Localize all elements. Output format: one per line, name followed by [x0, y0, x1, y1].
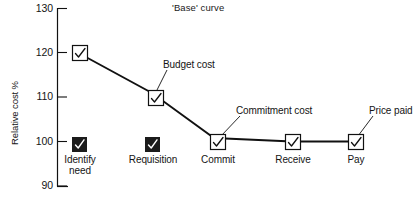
- annotation-budget-cost: Budget cost: [163, 60, 215, 71]
- x-category-label-identify-need-line1: Identify: [64, 154, 95, 165]
- below-axis-marker-identify-need: [73, 138, 87, 152]
- annotation-commitment-cost: Commitment cost: [236, 106, 312, 117]
- x-category-label-pay: Pay: [328, 155, 384, 166]
- x-category-label-receive: Receive: [265, 155, 321, 166]
- y-tick-label-100: 100: [25, 136, 53, 147]
- y-tick-label-130: 130: [25, 3, 53, 14]
- y-tick-label-110: 110: [25, 91, 53, 102]
- data-point-marker-receive: [286, 135, 301, 150]
- x-category-label-identify-need-line2: need: [53, 166, 107, 177]
- annotation-price-paid: Price paid: [369, 106, 412, 117]
- chart-container: 'Base' curve Relative cost % 130 120 110…: [0, 0, 418, 198]
- data-point-marker-commit: [211, 135, 226, 150]
- x-category-label-commit: Commit: [190, 155, 246, 166]
- data-point-marker-identify-need: [73, 46, 88, 61]
- x-category-label-identify-need: Identify need: [53, 155, 107, 176]
- x-category-label-requisition: Requisition: [120, 155, 186, 166]
- series-base-curve-line: [84, 56, 356, 142]
- leader-line-price-paid: [358, 116, 373, 136]
- leader-line-budget-cost: [157, 70, 167, 90]
- y-axis-title: Relative cost %: [10, 81, 20, 145]
- y-tick-label-120: 120: [25, 47, 53, 58]
- chart-title: 'Base' curve: [172, 3, 224, 13]
- leader-line-commitment-cost: [221, 116, 240, 136]
- data-point-marker-requisition: [149, 91, 164, 106]
- data-point-marker-pay: [349, 135, 364, 150]
- below-axis-marker-requisition: [146, 138, 160, 152]
- y-tick-label-90: 90: [25, 180, 53, 191]
